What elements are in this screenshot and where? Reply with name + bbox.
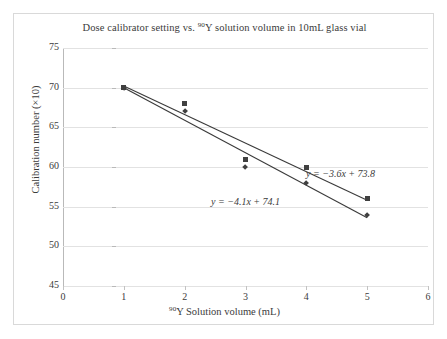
chart-title: Dose calibrator setting vs. 90Y solution… — [14, 22, 435, 33]
data-point-square — [365, 196, 370, 201]
x-tick-mark — [306, 286, 307, 290]
x-tick-label: 0 — [53, 291, 73, 302]
y-tick-mark — [112, 207, 116, 208]
y-tick-label: 55 — [35, 200, 59, 211]
y-tick-mark — [112, 127, 116, 128]
y-tick-label: 70 — [35, 81, 59, 92]
y-tick-mark — [112, 167, 116, 168]
chart-title-after: Y solution volume in 10mL glass vial — [205, 22, 366, 33]
y-tick-label: 75 — [35, 41, 59, 52]
x-tick-label: 1 — [114, 291, 134, 302]
equation-upper-label: y = −3.6x + 73.8 — [306, 168, 375, 179]
trendline-upper — [124, 86, 367, 200]
x-axis-title-text: Y Solution volume (mL) — [176, 306, 280, 317]
x-tick-label: 4 — [296, 291, 316, 302]
y-tick-label: 65 — [35, 120, 59, 131]
chart-title-superscript: 90 — [198, 21, 205, 29]
x-tick-mark — [124, 286, 125, 290]
x-tick-mark — [367, 286, 368, 290]
y-tick-mark — [112, 48, 116, 49]
plot-area: y = −3.6x + 73.8 y = −4.1x + 74.1 — [63, 48, 428, 286]
y-tick-mark — [112, 286, 116, 287]
x-tick-label: 2 — [175, 291, 195, 302]
x-tick-mark — [185, 286, 186, 290]
x-tick-label: 3 — [236, 291, 256, 302]
y-tick-mark — [112, 246, 116, 247]
x-tick-mark — [246, 286, 247, 290]
y-tick-mark — [112, 88, 116, 89]
data-point-square — [182, 101, 187, 106]
x-tick-label: 6 — [418, 291, 438, 302]
chart-container: Dose calibrator setting vs. 90Y solution… — [13, 13, 434, 325]
equation-lower-label: y = −4.1x + 74.1 — [211, 196, 280, 207]
data-point-square — [243, 157, 248, 162]
x-tick-mark — [63, 286, 64, 290]
chart-title-before: Dose calibrator setting vs. — [83, 22, 198, 33]
y-axis-tick-labels: 45505560657075 — [33, 48, 59, 286]
y-tick-label: 50 — [35, 239, 59, 250]
y-tick-label: 60 — [35, 160, 59, 171]
x-tick-mark — [428, 286, 429, 290]
y-tick-label: 45 — [35, 279, 59, 290]
x-axis-title: 90Y Solution volume (mL) — [14, 306, 435, 317]
x-tick-label: 5 — [357, 291, 377, 302]
x-axis-tick-labels: 0123456 — [63, 291, 428, 307]
